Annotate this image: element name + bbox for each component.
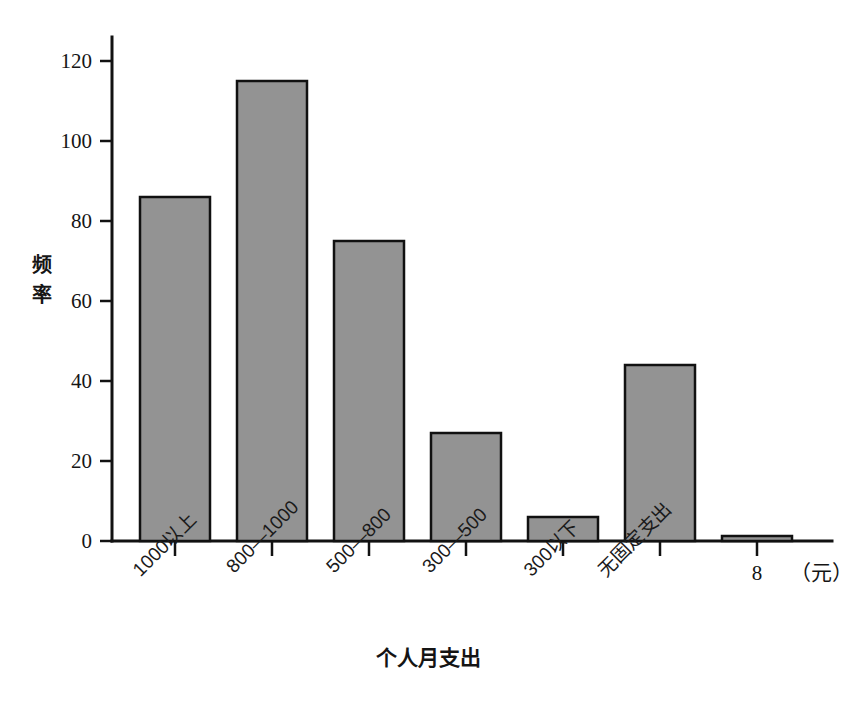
y-tick-label: 60 xyxy=(71,289,92,313)
y-tick-label: 100 xyxy=(61,129,93,153)
x-axis-unit-label: （元） xyxy=(790,561,853,584)
y-axis-title-char-2: 率 xyxy=(32,283,52,306)
chart-canvas: 0 20 40 60 80 100 120 频 率 8 （元） 个人月支出 xyxy=(0,0,857,705)
x-axis-title: 个人月支出 xyxy=(376,646,481,669)
y-tick-label: 0 xyxy=(82,529,93,553)
y-tick-label: 120 xyxy=(61,49,93,73)
bar-rect xyxy=(334,241,404,541)
x-tick-label-8: 8 xyxy=(752,561,763,585)
y-tick-label: 20 xyxy=(71,449,92,473)
y-tick-marks xyxy=(100,61,112,541)
y-tick-labels: 0 20 40 60 80 100 120 xyxy=(61,49,93,553)
bar-rect xyxy=(140,197,210,541)
y-axis-title: 频 率 xyxy=(32,253,52,306)
y-tick-label: 80 xyxy=(71,209,92,233)
bar-rect xyxy=(722,536,792,541)
bar-rect xyxy=(237,81,307,541)
y-axis-title-char-1: 频 xyxy=(32,253,52,276)
bar-series xyxy=(140,81,792,541)
bar-chart: 0 20 40 60 80 100 120 频 率 8 （元） 个人月支出 10… xyxy=(0,0,857,705)
y-tick-label: 40 xyxy=(71,369,92,393)
